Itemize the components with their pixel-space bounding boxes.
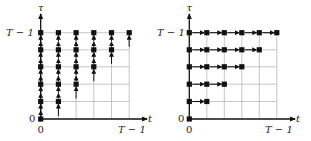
grid-node <box>239 30 244 35</box>
grid-node <box>56 99 61 104</box>
left-panel-lower-triangle-vertical: τ t T − 1 0 0 T − 1 <box>6 2 153 135</box>
grid-node <box>204 99 209 104</box>
grid-node <box>109 30 114 35</box>
grid-node <box>38 64 43 69</box>
grid-node <box>91 30 96 35</box>
grid-node <box>74 47 79 52</box>
right-t-axis-label: t <box>296 113 301 124</box>
grid-node <box>204 47 209 52</box>
right-y-top-tick: T − 1 <box>157 27 185 38</box>
grid-node <box>239 47 244 52</box>
grid-node <box>56 64 61 69</box>
grid-node <box>38 116 43 121</box>
grid-node <box>204 82 209 87</box>
grid-node <box>222 82 227 87</box>
right-y-origin-tick: 0 <box>178 113 184 124</box>
grid-node <box>222 47 227 52</box>
grid-node <box>187 30 192 35</box>
grid-node <box>74 64 79 69</box>
grid-node <box>274 30 279 35</box>
left-grid-lines <box>41 33 130 119</box>
grid-node <box>204 64 209 69</box>
grid-node <box>56 82 61 87</box>
grid-node <box>187 99 192 104</box>
right-x-origin-tick: 0 <box>186 124 192 135</box>
grid-node <box>127 30 132 35</box>
grid-node <box>56 47 61 52</box>
left-dependency-arrows <box>41 36 130 116</box>
left-y-top-tick: T − 1 <box>6 27 34 38</box>
grid-node <box>222 64 227 69</box>
diagram-canvas: τ t T − 1 0 0 T − 1 τ t T − 1 0 0 T − 1 <box>0 0 311 141</box>
left-nodes <box>38 30 132 122</box>
grid-node <box>109 47 114 52</box>
grid-node <box>91 64 96 69</box>
grid-node <box>187 47 192 52</box>
grid-node <box>56 30 61 35</box>
grid-node <box>187 64 192 69</box>
left-y-origin-tick: 0 <box>29 113 35 124</box>
grid-node <box>257 30 262 35</box>
right-x-end-tick: T − 1 <box>265 124 293 135</box>
grid-node <box>38 99 43 104</box>
grid-node <box>239 64 244 69</box>
grid-node <box>38 47 43 52</box>
right-panel-lower-triangle-horizontal: τ t T − 1 0 0 T − 1 <box>157 2 301 135</box>
left-tau-axis-label: τ <box>38 2 44 13</box>
grid-node <box>187 116 192 121</box>
grid-node <box>38 82 43 87</box>
grid-node <box>74 82 79 87</box>
right-nodes <box>187 30 280 122</box>
left-t-axis-label: t <box>148 113 153 124</box>
grid-node <box>187 82 192 87</box>
grid-node <box>204 30 209 35</box>
grid-node <box>38 30 43 35</box>
grid-node <box>257 47 262 52</box>
grid-node <box>74 30 79 35</box>
right-grid-lines <box>189 33 276 119</box>
right-tau-axis-label: τ <box>187 2 193 13</box>
grid-node <box>91 47 96 52</box>
left-x-end-tick: T − 1 <box>118 124 146 135</box>
grid-node <box>222 30 227 35</box>
left-x-origin-tick: 0 <box>38 124 44 135</box>
